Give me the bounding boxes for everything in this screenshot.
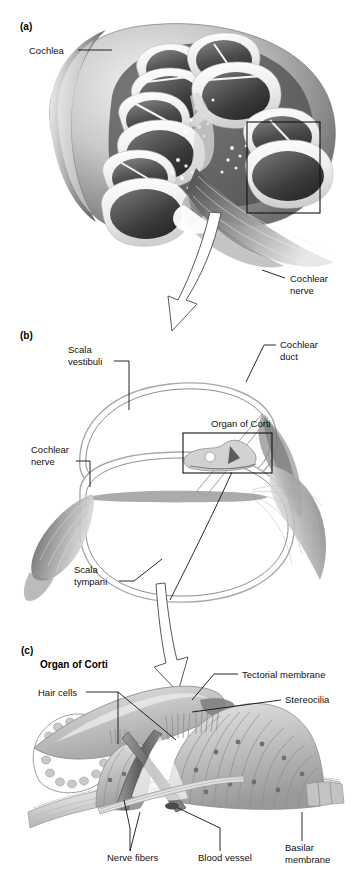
label-cochlear-nerve-b-line1: Cochlear: [31, 444, 69, 455]
label-cochlear-nerve-a-line2: nerve: [290, 285, 314, 296]
label-scala-tympani-line1: Scala: [74, 564, 98, 575]
panel-a-artwork: [50, 24, 336, 272]
label-scala-tympani-line2: tympani: [74, 576, 107, 587]
cochlea-figure-svg: (a) Cochlea Cochlear nerve: [0, 0, 352, 881]
label-cochlear-duct-line2: duct: [280, 351, 298, 362]
label-cochlea: Cochlea: [29, 45, 65, 56]
label-scala-vestibuli-line1: Scala: [68, 344, 92, 355]
figure-root: (a) Cochlea Cochlear nerve: [0, 0, 352, 881]
label-tectorial-membrane: Tectorial membrane: [242, 669, 325, 680]
panel-a-id: (a): [20, 21, 32, 32]
scala-tympani-outline: [80, 452, 294, 602]
blood-vessel-shape: [165, 803, 179, 810]
panel-a: (a) Cochlea Cochlear nerve: [20, 21, 335, 331]
panel-c-id: (c): [21, 645, 33, 656]
label-nerve-fibers: Nerve fibers: [107, 852, 158, 863]
leader-nerve-fibers-2: [130, 812, 140, 851]
label-cochlear-nerve-b-line2: nerve: [31, 456, 55, 467]
label-basilar-membrane-line2: membrane: [285, 854, 330, 865]
label-basilar-membrane-line1: Basilar: [285, 842, 314, 853]
label-cochlear-duct-line1: Cochlear: [280, 339, 318, 350]
label-blood-vessel: Blood vessel: [198, 852, 252, 863]
label-scala-vestibuli-line2: vestibuli: [68, 356, 102, 367]
panel-b-id: (b): [20, 330, 33, 341]
label-organ-of-corti-c: Organ of Corti: [40, 659, 108, 670]
label-organ-of-corti-b: Organ of Corti: [211, 418, 271, 429]
leader-cochlear-nerve-a: [262, 270, 285, 278]
panel-b: (b) Scala vestibuli Cochlear duct Organ …: [20, 330, 326, 692]
leader-cochlear-duct: [246, 345, 276, 382]
claudius-cells: [306, 782, 344, 806]
label-cochlear-nerve-a-line1: Cochlear: [290, 273, 328, 284]
leader-blood-vessel: [178, 808, 220, 851]
label-stereocilia: Stereocilia: [285, 694, 330, 705]
label-hair-cells: Hair cells: [38, 687, 77, 698]
